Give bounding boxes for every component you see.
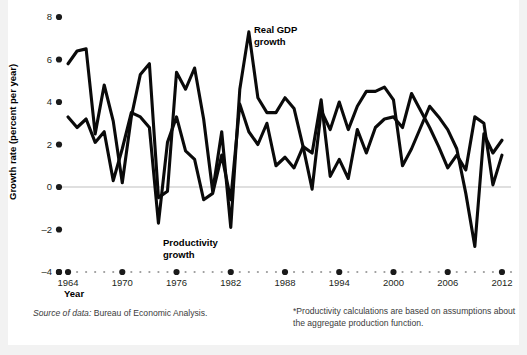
x-axis-minor-dot: [374, 271, 376, 273]
productivity-footnote-line1: *Productivity calculations are based on …: [293, 306, 491, 316]
x-axis-minor-dot: [112, 271, 114, 273]
x-axis-tick-label: 2012: [491, 277, 512, 288]
x-axis-minor-dot: [456, 271, 458, 273]
x-axis-tick-dot: [65, 269, 71, 275]
x-axis-minor-dot: [184, 271, 186, 273]
y-axis-tick-label: –2: [41, 224, 52, 235]
x-axis-minor-dot: [76, 271, 78, 273]
x-axis-minor-dot: [94, 271, 96, 273]
x-axis-minor-dot: [266, 271, 268, 273]
x-axis-tick-dot: [336, 269, 342, 275]
y-axis-tick-dot: [56, 184, 62, 190]
chart-plot-area: 86420–2–4 196419701976198219881994200020…: [0, 0, 527, 300]
y-axis-tick-label: 6: [47, 54, 52, 65]
x-axis-minor-dot: [239, 271, 241, 273]
x-axis-minor-dot: [474, 271, 476, 273]
x-axis-minor-dot: [221, 271, 223, 273]
real-gdp-growth-label-line2: growth: [254, 36, 286, 47]
source-note-prefix: Source of data:: [33, 308, 91, 318]
x-axis-tick-dot: [282, 269, 288, 275]
x-axis-minor-dot: [212, 271, 214, 273]
x-axis-tick-label: 2006: [437, 277, 458, 288]
x-axis-tick-label: 1964: [57, 277, 78, 288]
x-axis-minor-dot: [510, 271, 512, 273]
y-axis-tick-label: 0: [47, 181, 52, 192]
x-axis-minor-dot: [492, 271, 494, 273]
x-axis-minor-dot: [130, 271, 132, 273]
y-axis-tick-group: 86420–2–4: [41, 11, 62, 277]
footnote-area: Source of data: Bureau of Economic Analy…: [0, 300, 527, 355]
x-axis-tick-label: 1982: [220, 277, 241, 288]
x-axis-minor-dot: [320, 271, 322, 273]
x-axis-minor-dot: [347, 271, 349, 273]
y-axis-title: Growth rate (percent per year): [7, 64, 18, 200]
data-series-group: [68, 32, 502, 247]
y-axis-title-group: Growth rate (percent per year): [7, 64, 18, 200]
growth-rate-line-chart: 86420–2–4 196419701976198219881994200020…: [0, 0, 527, 300]
x-axis-tick-group: 196419701976198219881994200020062012: [56, 269, 513, 288]
y-axis-tick-label: 2: [47, 139, 52, 150]
x-axis-minor-dot: [103, 271, 105, 273]
x-axis-minor-dot: [148, 271, 150, 273]
x-axis-tick-label: 1988: [274, 277, 295, 288]
x-axis-minor-dot: [420, 271, 422, 273]
x-axis-minor-dot: [465, 271, 467, 273]
x-axis-minor-dot: [410, 271, 412, 273]
y-axis-tick-dot: [56, 141, 62, 147]
x-axis-origin-dot: [56, 269, 62, 275]
y-axis-tick-dot: [56, 99, 62, 105]
x-axis-minor-dot: [356, 271, 358, 273]
source-note-body: Bureau of Economic Analysis.: [94, 308, 208, 318]
x-axis-minor-dot: [194, 271, 196, 273]
x-axis-tick-dot: [228, 269, 234, 275]
x-axis-minor-dot: [157, 271, 159, 273]
x-axis-minor-dot: [203, 271, 205, 273]
x-axis-minor-dot: [248, 271, 250, 273]
real-gdp-growth-label-line1: Real GDP: [254, 24, 298, 35]
x-axis-minor-dot: [302, 271, 304, 273]
x-axis-tick-dot: [499, 269, 505, 275]
x-axis-minor-dot: [275, 271, 277, 273]
x-axis-tick-dot: [173, 269, 179, 275]
x-axis-tick-dot: [390, 269, 396, 275]
x-axis-tick-label: 1976: [166, 277, 187, 288]
x-axis-minor-dot: [311, 271, 313, 273]
x-axis-tick-dot: [445, 269, 451, 275]
productivity-growth-label-line1: Productivity: [163, 237, 219, 248]
x-axis-minor-dot: [329, 271, 331, 273]
x-axis-title: Year: [64, 288, 84, 299]
y-axis-tick-dot: [56, 56, 62, 62]
y-axis-tick-dot: [56, 14, 62, 20]
x-axis-minor-dot: [257, 271, 259, 273]
x-axis-tick-label: 2000: [383, 277, 404, 288]
x-axis-minor-dot: [166, 271, 168, 273]
x-axis-minor-dot: [383, 271, 385, 273]
x-axis-tick-dot: [119, 269, 125, 275]
screenshot-root: 86420–2–4 196419701976198219881994200020…: [0, 0, 527, 355]
y-axis-tick-label: 8: [47, 11, 52, 22]
x-axis-minor-dot: [139, 271, 141, 273]
productivity-footnote: *Productivity calculations are based on …: [293, 306, 518, 329]
y-axis-tick-label: 4: [47, 96, 52, 107]
x-axis-minor-dot: [483, 271, 485, 273]
x-axis-minor-dot: [293, 271, 295, 273]
x-axis-minor-dot: [429, 271, 431, 273]
x-axis-minor-dot: [401, 271, 403, 273]
x-axis-tick-label: 1970: [112, 277, 133, 288]
productivity-growth-label-line2: growth: [163, 249, 195, 260]
x-axis-minor-dot: [438, 271, 440, 273]
x-axis-title-group: Year: [64, 288, 84, 299]
x-axis-tick-label: 1994: [329, 277, 350, 288]
x-axis-minor-dot: [365, 271, 367, 273]
y-axis-tick-dot: [56, 226, 62, 232]
x-axis-minor-dot: [85, 271, 87, 273]
y-axis-tick-label: –4: [41, 266, 52, 277]
source-note: Source of data: Bureau of Economic Analy…: [33, 308, 207, 318]
